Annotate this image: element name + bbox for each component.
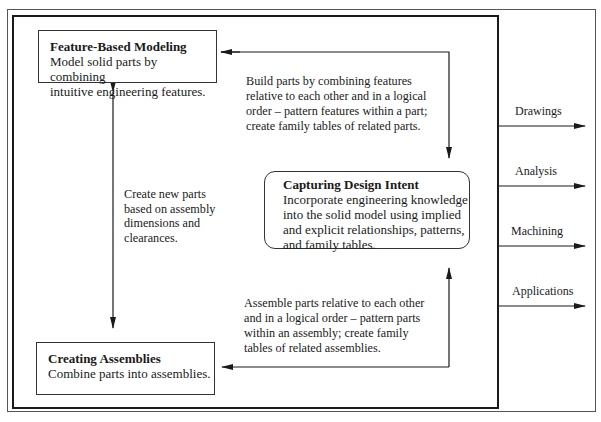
create-new-parts-note: Create new parts based on assembly dimen… — [124, 187, 234, 245]
note-line: relative to each other and in a logical — [246, 89, 446, 104]
note-line: based on assembly — [124, 202, 234, 217]
note-line: and in a logical order – pattern parts — [244, 311, 449, 326]
creating-assemblies-box: Creating Assemblies Combine parts into a… — [36, 342, 215, 395]
capturing-design-intent-line: into the solid model using implied — [283, 207, 469, 222]
feature-based-modeling-box: Feature-Based Modeling Model solid parts… — [38, 30, 217, 83]
note-line: tables of related assemblies. — [244, 341, 449, 356]
creating-assemblies-line: Combine parts into assemblies. — [48, 366, 214, 381]
capturing-design-intent-line: Incorporate engineering knowledge — [283, 192, 469, 207]
note-line: order – pattern features within a part; — [246, 104, 446, 119]
note-line: Create new parts — [124, 187, 234, 202]
capturing-design-intent-box: Capturing Design Intent Incorporate engi… — [264, 171, 470, 249]
output-label-applications: Applications — [512, 284, 573, 298]
note-line: create family tables of related parts. — [246, 119, 446, 134]
assemble-parts-note: Assemble parts relative to each other an… — [244, 296, 449, 356]
output-label-drawings: Drawings — [515, 104, 562, 118]
capturing-design-intent-title: Capturing Design Intent — [283, 177, 469, 192]
note-line: Build parts by combining features — [246, 74, 446, 89]
capturing-design-intent-line: and family tables. — [283, 237, 469, 252]
note-line: dimensions and — [124, 216, 234, 231]
note-line: Assemble parts relative to each other — [244, 296, 449, 311]
feature-based-modeling-title: Feature-Based Modeling — [50, 39, 216, 54]
note-line: within an assembly; create family — [244, 326, 449, 341]
note-line: clearances. — [124, 231, 234, 246]
output-label-machining: Machining — [511, 224, 563, 238]
build-parts-note: Build parts by combining features relati… — [246, 74, 446, 134]
output-label-analysis: Analysis — [515, 164, 557, 178]
feature-based-modeling-line: Model solid parts by combining — [50, 54, 216, 84]
creating-assemblies-title: Creating Assemblies — [48, 351, 214, 366]
feature-based-modeling-line: intuitive engineering features. — [50, 84, 216, 99]
capturing-design-intent-line: and explicit relationships, patterns, — [283, 222, 469, 237]
